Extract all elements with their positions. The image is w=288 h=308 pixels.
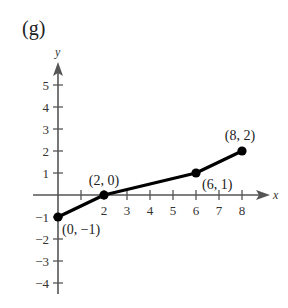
y-tick-label: −2 bbox=[35, 232, 49, 247]
point-label: (6, 1) bbox=[202, 177, 233, 193]
y-tick-label: 1 bbox=[43, 166, 50, 181]
y-tick-label: 4 bbox=[43, 100, 50, 115]
y-axis-label: y bbox=[54, 45, 61, 59]
x-tick-label: 4 bbox=[147, 203, 154, 218]
data-point bbox=[99, 190, 108, 199]
x-tick-label: 7 bbox=[216, 203, 223, 218]
x-tick-label: 6 bbox=[193, 203, 200, 218]
y-tick-label: −4 bbox=[35, 276, 49, 291]
panel-label: (g) bbox=[22, 17, 45, 40]
point-label: (0, −1) bbox=[62, 222, 101, 238]
y-tick-label: 3 bbox=[43, 122, 50, 137]
y-tick-label: −3 bbox=[35, 254, 49, 269]
y-tick-label: −1 bbox=[35, 210, 49, 225]
axes: x y bbox=[33, 45, 279, 294]
data-point bbox=[53, 212, 62, 221]
y-tick-label: 2 bbox=[43, 144, 50, 159]
x-tick-label: 5 bbox=[170, 203, 177, 218]
y-ticks: −4−3−2−112345 bbox=[35, 78, 63, 291]
x-tick-label: 8 bbox=[239, 203, 246, 218]
data-point bbox=[191, 168, 200, 177]
data-point bbox=[237, 146, 246, 155]
chart: (g) x y 2345678 −4−3−2−112345 (0, −1)(2,… bbox=[0, 0, 288, 308]
point-label: (2, 0) bbox=[89, 173, 120, 189]
point-label: (8, 2) bbox=[225, 128, 256, 144]
x-tick-label: 2 bbox=[101, 203, 108, 218]
y-tick-label: 5 bbox=[43, 78, 50, 93]
x-tick-label: 3 bbox=[124, 203, 131, 218]
x-axis-label: x bbox=[272, 188, 279, 202]
